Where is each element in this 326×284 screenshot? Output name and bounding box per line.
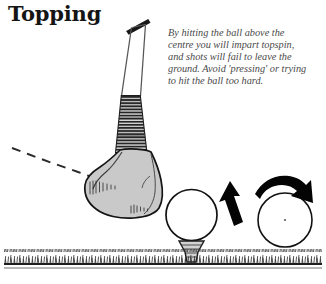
line-art-canvas [0,0,326,284]
ball-center-mark [284,219,286,221]
club-head [85,149,162,218]
golf-ball-on-tee [166,190,217,241]
golf-ball-topspin [258,193,312,247]
club-shaft [122,25,146,97]
club-grip-icon [127,20,151,35]
ball-direction-arrow [219,181,243,226]
dashed-swing-path [12,148,92,177]
illustration-figure: Topping By hitting the ball above the ce… [0,0,326,284]
grass-tufts [4,249,322,263]
club-hosel-hatched [116,96,148,154]
ground-line-with-grass [4,249,322,268]
